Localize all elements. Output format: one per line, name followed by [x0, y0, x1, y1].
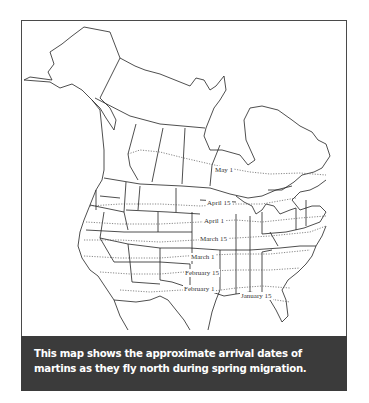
isoline-label: March 1 [190, 253, 216, 261]
pacific-coast-outline [78, 100, 128, 330]
isoline-label: March 15 [199, 235, 228, 243]
arrival-isolines [84, 150, 326, 302]
province-border-ab-sk [152, 128, 163, 182]
us-canada-border [104, 178, 292, 198]
great-lakes-outline [236, 196, 296, 214]
isoline-label: February 1 [183, 285, 216, 293]
alaska-outline [24, 27, 120, 130]
isoline-label: February 15 [184, 269, 220, 277]
caption-text: This map shows the approximate arrival d… [34, 348, 306, 374]
isoline-label: April 1 [203, 217, 225, 225]
isoline-label: May 1 [214, 166, 234, 174]
isoline-label: April 15 [206, 199, 232, 207]
province-border-sk-mb [182, 128, 185, 184]
northeast-outline [236, 180, 326, 250]
territory-border [95, 98, 205, 128]
isoline-label: January 15 [240, 292, 273, 300]
map-caption: This map shows the approximate arrival d… [21, 336, 347, 391]
